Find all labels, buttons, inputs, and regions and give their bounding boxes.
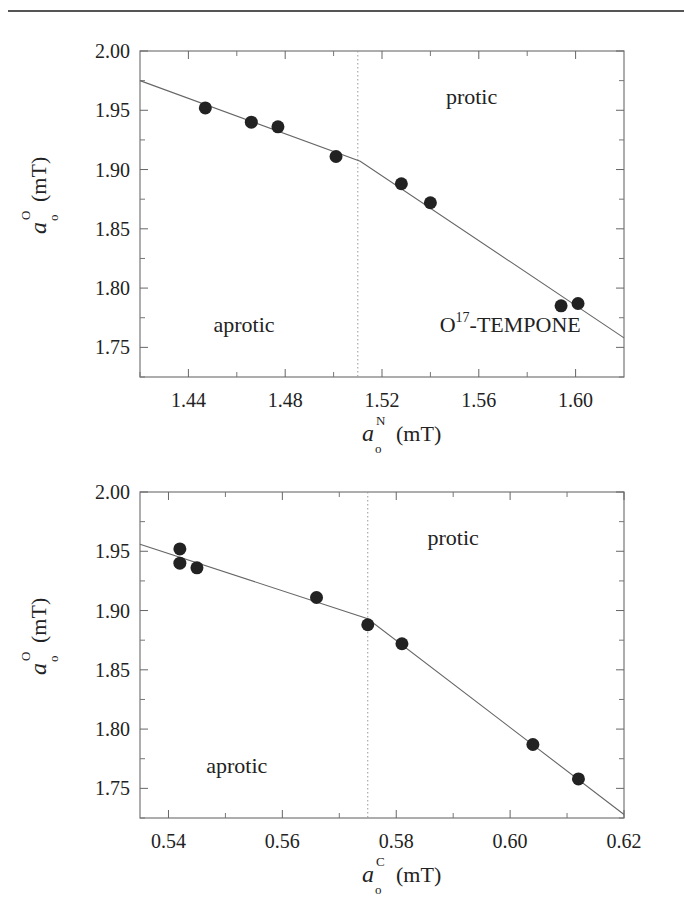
- x-tick-label: 1.44: [171, 389, 206, 411]
- x-tick-label: 0.58: [379, 830, 414, 852]
- data-point: [395, 637, 408, 650]
- data-point: [245, 116, 258, 129]
- x-label-superscript: N: [376, 413, 386, 428]
- y-label-unit: (mT): [26, 598, 51, 643]
- y-tick-label: 1.90: [95, 159, 130, 181]
- y-label-symbol: a: [25, 222, 51, 234]
- annotation-protic: protic: [446, 84, 498, 109]
- data-point: [395, 177, 408, 190]
- y-label-superscript: O: [18, 652, 33, 661]
- data-points: [199, 101, 585, 312]
- annotation-aprotic: aprotic: [214, 312, 275, 337]
- y-tick-label: 2.00: [95, 481, 130, 503]
- x-label-subscript: o: [375, 441, 382, 456]
- y-label-subscript: o: [46, 215, 61, 222]
- figure: 1.441.481.521.561.601.751.801.851.901.95…: [0, 0, 684, 906]
- y-label-symbol: a: [25, 663, 51, 675]
- chart-top: 1.441.481.521.561.601.751.801.851.901.95…: [18, 40, 624, 456]
- annotation-protic: protic: [428, 525, 480, 550]
- data-point: [572, 772, 585, 785]
- x-label-symbol: a: [362, 420, 374, 446]
- x-tick-label: 0.62: [607, 830, 642, 852]
- data-point: [572, 297, 585, 310]
- x-tick-label: 1.48: [268, 389, 303, 411]
- data-points: [173, 542, 585, 785]
- data-point: [310, 591, 323, 604]
- y-tick-label: 1.85: [95, 218, 130, 240]
- x-tick-label: 1.60: [558, 389, 593, 411]
- data-point: [526, 738, 539, 751]
- x-label-superscript: C: [376, 854, 385, 869]
- y-label-unit: (mT): [26, 157, 51, 202]
- data-point: [424, 196, 437, 209]
- x-axis-label: aNo(mT): [362, 413, 441, 456]
- y-tick-label: 1.85: [95, 659, 130, 681]
- y-tick-label: 1.90: [95, 600, 130, 622]
- data-point: [555, 299, 568, 312]
- x-tick-label: 0.56: [265, 830, 300, 852]
- data-point: [330, 150, 343, 163]
- y-tick-label: 1.75: [95, 777, 130, 799]
- fit-line: [140, 81, 624, 338]
- data-point: [361, 618, 374, 631]
- x-label-symbol: a: [362, 861, 374, 887]
- y-axis: 1.751.801.851.901.952.00: [95, 481, 624, 818]
- y-tick-label: 1.80: [95, 718, 130, 740]
- x-label-unit: (mT): [396, 421, 441, 446]
- x-tick-label: 0.60: [493, 830, 528, 852]
- y-tick-label: 2.00: [95, 40, 130, 62]
- annotation-compound-label: O17-TEMPONE: [440, 310, 581, 337]
- data-point: [271, 120, 284, 133]
- x-label-subscript: o: [375, 882, 382, 897]
- data-point: [199, 101, 212, 114]
- y-axis-label: aOo(mT): [18, 157, 61, 234]
- data-point: [190, 561, 203, 574]
- y-tick-label: 1.95: [95, 99, 130, 121]
- x-tick-label: 1.52: [365, 389, 400, 411]
- data-point: [173, 542, 186, 555]
- chart-bottom: 0.540.560.580.600.621.751.801.851.901.95…: [18, 481, 642, 897]
- x-axis: 0.540.560.580.600.62: [151, 492, 642, 852]
- y-label-subscript: o: [46, 656, 61, 663]
- y-axis-label: aOo(mT): [18, 598, 61, 675]
- x-tick-label: 0.54: [151, 830, 186, 852]
- x-tick-label: 1.56: [461, 389, 496, 411]
- y-label-superscript: O: [18, 211, 33, 220]
- annotation-aprotic: aprotic: [206, 753, 267, 778]
- y-tick-label: 1.75: [95, 336, 130, 358]
- x-label-unit: (mT): [396, 862, 441, 887]
- data-point: [173, 557, 186, 570]
- x-axis-label: aCo(mT): [362, 854, 441, 897]
- y-tick-label: 1.95: [95, 540, 130, 562]
- y-tick-label: 1.80: [95, 277, 130, 299]
